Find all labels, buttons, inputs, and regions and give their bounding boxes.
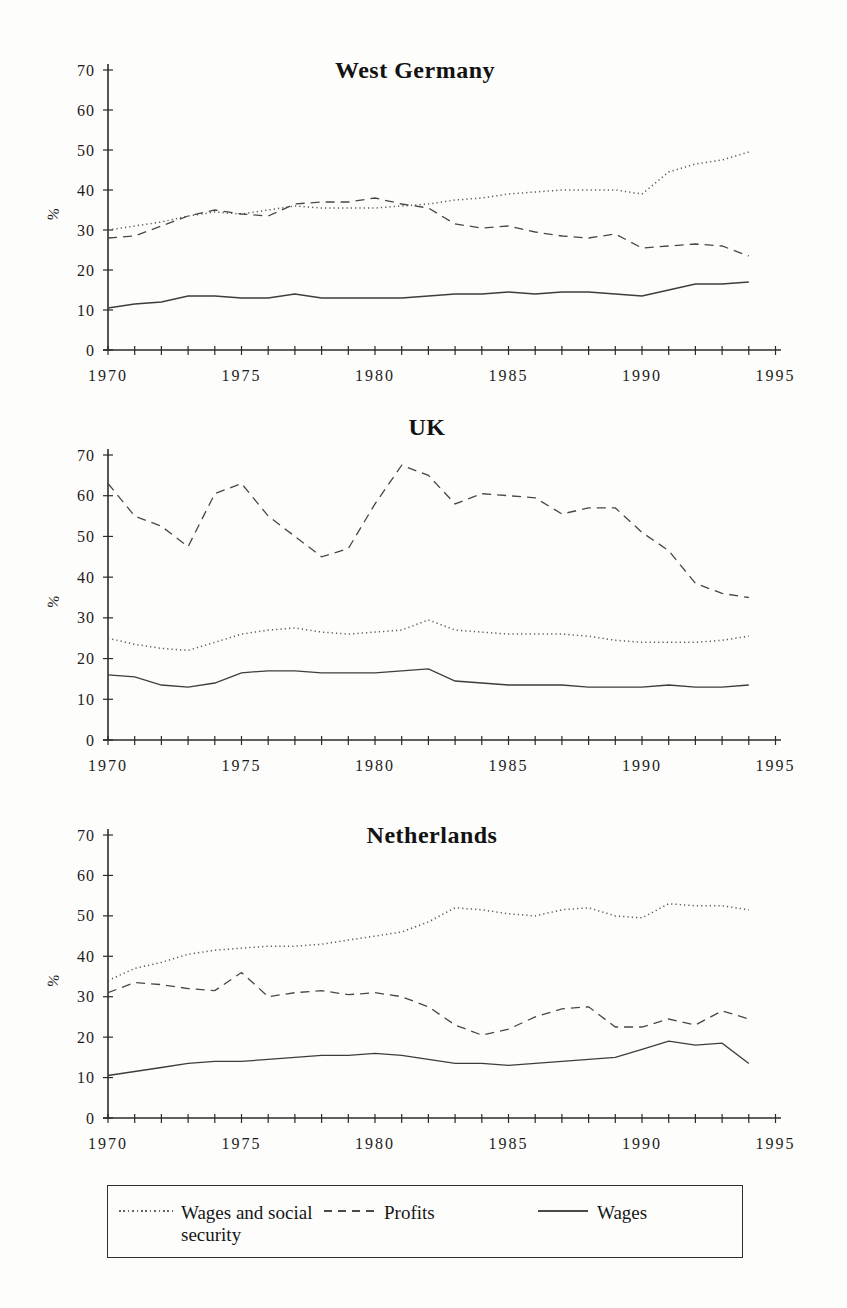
chart-title: UK [409,414,446,440]
y-tick-label: 70 [77,827,95,844]
y-tick-label: 20 [77,262,95,279]
y-tick-label: 70 [77,447,95,464]
y-tick-label: 40 [77,569,95,586]
chart-netherlands: Netherlands01020304050607019701975198019… [44,822,795,1152]
series-profits-dashed [108,465,749,597]
x-tick-label: 1970 [88,367,128,384]
legend-box: Wages and social security Profits Wages [107,1185,743,1258]
x-tick-label: 1995 [756,367,796,384]
y-tick-label: 60 [77,487,95,504]
y-tick-label: 20 [77,1029,95,1046]
legend-sample-solid-line [538,1210,588,1212]
x-tick-label: 1975 [222,1135,262,1152]
x-tick-label: 1995 [756,1135,796,1152]
legend-label-profits: Profits [384,1202,435,1224]
series-profits-dashed [108,198,749,256]
x-tick-label: 1970 [88,1135,128,1152]
chart-title: West Germany [335,57,495,83]
y-tick-label: 30 [77,609,95,626]
charts-canvas: West Germany0102030405060701970197519801… [0,0,847,1175]
series-wages-solid [108,282,749,308]
y-tick-label: 60 [77,102,95,119]
x-tick-label: 1995 [756,757,796,774]
x-tick-label: 1990 [622,367,662,384]
chart-title: Netherlands [367,822,498,848]
x-tick-label: 1990 [622,757,662,774]
y-tick-label: 50 [77,907,95,924]
legend-sample-dashed-line [324,1210,376,1212]
x-tick-label: 1985 [489,1135,529,1152]
y-tick-label: 0 [86,1110,95,1127]
y-tick-label: 0 [86,342,95,359]
chart-west-germany: West Germany0102030405060701970197519801… [44,57,795,384]
x-tick-label: 1985 [489,757,529,774]
series-profits-dashed [108,973,749,1036]
y-tick-label: 50 [77,528,95,545]
legend-label-wages: Wages [597,1202,647,1224]
legend-sample-dotted-line [119,1210,173,1212]
series-wages-solid [108,669,749,687]
x-tick-label: 1980 [355,1135,395,1152]
y-tick-label: 70 [77,62,95,79]
scanned-chart-page: West Germany0102030405060701970197519801… [0,0,847,1308]
y-tick-label: 30 [77,222,95,239]
y-tick-label: 30 [77,988,95,1005]
chart-uk: UK01020304050607019701975198019851990199… [44,414,795,774]
x-tick-label: 1980 [355,367,395,384]
x-tick-label: 1990 [622,1135,662,1152]
series-wages-and-social-security-dotted [108,152,749,230]
x-tick-label: 1980 [355,757,395,774]
series-wages-and-social-security-dotted [108,904,749,981]
x-tick-label: 1970 [88,757,128,774]
y-tick-label: 40 [77,948,95,965]
y-axis-unit-label: % [44,207,62,222]
x-tick-label: 1975 [222,757,262,774]
y-tick-label: 10 [77,302,95,319]
series-wages-solid [108,1041,749,1075]
y-axis-unit-label: % [44,594,62,609]
y-tick-label: 50 [77,142,95,159]
x-tick-label: 1985 [489,367,529,384]
y-axis-unit-label: % [44,973,62,988]
y-tick-label: 10 [77,1069,95,1086]
y-tick-label: 10 [77,691,95,708]
y-tick-label: 20 [77,650,95,667]
x-tick-label: 1975 [222,367,262,384]
y-tick-label: 0 [86,732,95,749]
y-tick-label: 60 [77,867,95,884]
legend-label-wages-and-social-security: Wages and social security [181,1202,331,1246]
series-wages-and-social-security-dotted [108,620,749,651]
y-tick-label: 40 [77,182,95,199]
